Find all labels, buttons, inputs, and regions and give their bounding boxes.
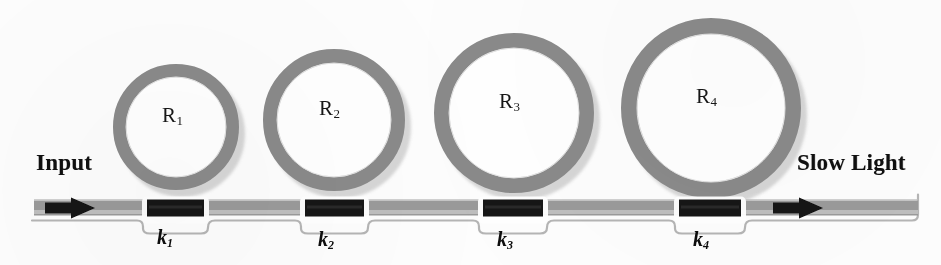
ring-label-subscript-3: 3 (514, 99, 521, 114)
ring-label-subscript-1: 1 (177, 113, 184, 128)
coupler-label-base-2: k (318, 228, 328, 250)
diagram-canvas (0, 0, 941, 265)
ring-label-4: R4 (696, 84, 717, 109)
coupler-label-base-4: k (693, 228, 703, 250)
coupler-label-subscript-1: 1 (167, 236, 173, 250)
ring-label-subscript-2: 2 (334, 106, 341, 121)
coupler-label-subscript-4: 4 (703, 238, 709, 252)
coupler-label-base-1: k (157, 226, 167, 248)
ring-label-2: R2 (319, 96, 340, 121)
coupler-label-subscript-2: 2 (328, 238, 334, 252)
ring-resonator-layer (120, 26, 794, 190)
ring-label-base-3: R (499, 89, 513, 113)
input-port-label: Input (36, 150, 92, 176)
coupler-label-base-3: k (497, 228, 507, 250)
ring-resonator-diagram: Input Slow Light R1R2R3R4k1k2k3k4 (0, 0, 941, 265)
coupler-label-subscript-3: 3 (507, 238, 513, 252)
coupler-label-4: k4 (693, 228, 709, 251)
ring-label-subscript-4: 4 (711, 94, 718, 109)
ring-label-base-1: R (162, 103, 176, 127)
ring-label-base-2: R (319, 96, 333, 120)
ring-label-3: R3 (499, 89, 520, 114)
ring-label-base-4: R (696, 84, 710, 108)
output-port-label: Slow Light (797, 150, 906, 176)
coupler-label-3: k3 (497, 228, 513, 251)
coupler-label-2: k2 (318, 228, 334, 251)
ring-label-1: R1 (162, 103, 183, 128)
coupler-label-1: k1 (157, 226, 173, 249)
